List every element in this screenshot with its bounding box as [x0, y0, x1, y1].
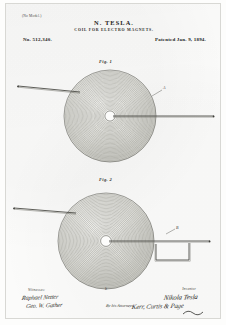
figure-2-caption: Fig. 2: [99, 177, 112, 182]
figure-1-drawing: A: [6, 64, 221, 169]
witness-signature-1: Raphael Netter: [21, 293, 59, 301]
lead-terminal-dot: [209, 241, 211, 243]
no-model-note: (No Model.): [22, 14, 42, 18]
figure-2-label-B: B: [176, 225, 178, 230]
coil-lead-left: [17, 86, 80, 94]
signature-block: Witnesses: Raphael Netter Geo. W. Gather…: [6, 287, 221, 319]
inventor-name-heading: N. TESLA.: [6, 19, 221, 26]
coil-lead-right: [113, 116, 215, 118]
patent-number: No. 512,340.: [23, 37, 52, 42]
label-B-leader-line: [166, 229, 175, 234]
figure-1-svg: [6, 64, 221, 169]
patent-date: Patented Jan. 9, 1894.: [155, 37, 206, 42]
attorney-prefix-text: By his Attorneys: [106, 303, 134, 308]
figure-2-svg: [6, 186, 221, 294]
patent-drawing-page: (No Model.) N. TESLA. COIL FOR ELECTRO M…: [0, 0, 226, 325]
inventor-group: Inventor Nikola Tesla By his Attorneys K…: [106, 287, 214, 317]
inventor-signature: Nikola Tesla: [164, 293, 199, 302]
witnesses-label: Witnesses:: [28, 288, 45, 292]
inventor-label: Inventor: [182, 287, 196, 291]
figure-2-drawing: B b: [6, 186, 221, 294]
figure-1-label-A: A: [163, 85, 165, 90]
signature-flourish-icon: [182, 309, 204, 317]
patent-header: (No Model.) N. TESLA. COIL FOR ELECTRO M…: [6, 4, 221, 52]
coil-lead-upper-left: [13, 208, 76, 215]
attorney-signature: Kerr, Curtis & Page: [131, 302, 184, 310]
patent-title: COIL FOR ELECTRO MAGNETS.: [6, 28, 221, 32]
witness-signature-2: Geo. W. Gather: [25, 302, 62, 309]
label-A-leader-line: [152, 90, 162, 96]
page-sheet: (No Model.) N. TESLA. COIL FOR ELECTRO M…: [5, 3, 221, 319]
